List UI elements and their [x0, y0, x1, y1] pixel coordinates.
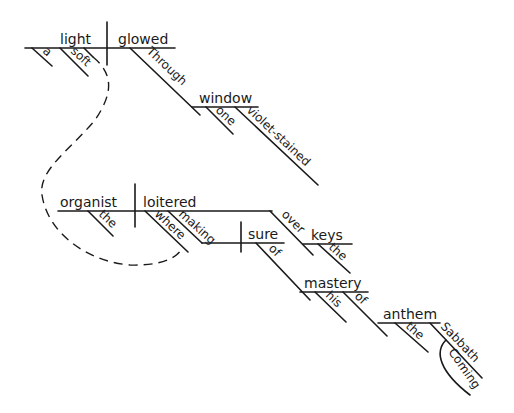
- word-loitered: loitered: [143, 194, 196, 210]
- word-violet-stained: violet-stained: [244, 103, 313, 169]
- word-sure: sure: [248, 226, 278, 242]
- word-over: over: [279, 207, 308, 236]
- word-keys: keys: [311, 227, 343, 243]
- word-window: window: [199, 90, 252, 106]
- word-glowed: glowed: [118, 31, 168, 47]
- modifier-line-violet: [235, 107, 318, 185]
- sentence-diagram: light glowed a soft Through window one v…: [0, 0, 514, 413]
- word-organist: organist: [60, 194, 118, 210]
- word-anthem: anthem: [383, 306, 437, 322]
- word-through: Through: [143, 43, 190, 88]
